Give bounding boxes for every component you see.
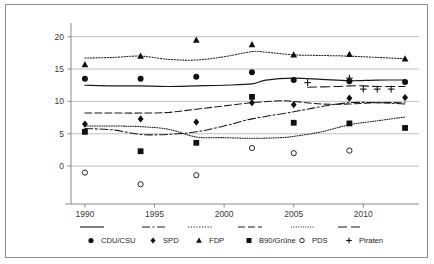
datapoint-spd-2013	[402, 94, 408, 101]
datapoint-spd-1994	[138, 115, 144, 122]
datapoint-b90-gr-ne-2002	[249, 94, 255, 100]
x-tick-label-1990: 1990	[75, 209, 94, 219]
datapoint-spd-2005	[291, 101, 297, 108]
series-lines-group	[85, 51, 405, 138]
series-line-spd	[85, 102, 405, 134]
chart-legend: CDU/CSUSPDFDPB90/GrünePDSPiraten	[80, 227, 383, 245]
series-line-cdu-csu	[85, 78, 405, 86]
y-axis-tick-labels: 05101520	[55, 32, 65, 171]
x-axis-tick-labels: 19901995200020052010	[75, 209, 373, 219]
datapoint-spd-2009	[346, 95, 352, 102]
datapoint-piraten-2006	[304, 79, 311, 86]
legend-label-spd: SPD	[163, 236, 179, 245]
y-tick-label-15: 15	[55, 64, 65, 74]
datapoint-b90-gr-ne-1990	[82, 129, 88, 135]
datapoint-fdp-1990	[82, 61, 89, 67]
datapoint-pds-1994	[138, 182, 143, 187]
datapoint-cdu-csu-2005	[291, 77, 297, 83]
datapoint-cdu-csu-1990	[82, 76, 88, 82]
y-tick-label-5: 5	[59, 129, 64, 139]
series-markers-group	[82, 36, 409, 186]
legend-marker-fdp	[196, 237, 202, 242]
datapoint-b90-gr-ne-2005	[291, 120, 297, 126]
datapoint-b90-gr-ne-2013	[402, 125, 408, 131]
series-line-piraten	[308, 86, 405, 87]
x-tick-label-1995: 1995	[145, 209, 164, 219]
datapoint-b90-gr-ne-2009	[347, 121, 353, 127]
legend-label-cdu-csu: CDU/CSU	[101, 236, 136, 245]
datapoint-pds-2005	[291, 151, 296, 156]
datapoint-spd-2002	[249, 99, 255, 106]
datapoint-b90-gr-ne-1994	[138, 148, 144, 154]
legend-marker-b90-gr-ne	[247, 238, 252, 243]
x-tick-label-2005: 2005	[284, 209, 303, 219]
datapoint-b90-gr-ne-1998	[193, 140, 199, 146]
gridlines-group	[71, 37, 419, 166]
y-tick-label-0: 0	[59, 161, 64, 171]
datapoint-pds-1998	[194, 173, 199, 178]
legend-label-fdp: FDP	[209, 236, 224, 245]
legend-marker-piraten	[346, 238, 352, 244]
y-tick-label-20: 20	[55, 32, 65, 42]
datapoint-spd-1990	[82, 120, 88, 127]
datapoint-cdu-csu-2002	[249, 69, 255, 75]
datapoint-fdp-2002	[249, 41, 256, 47]
legend-label-b90-gr-ne: B90/Grüne	[259, 236, 296, 245]
legend-marker-pds	[300, 238, 304, 242]
line-chart: 19901995200020052010 05101520 CDU/CSUSPD…	[6, 5, 427, 257]
datapoint-spd-1998	[193, 119, 199, 126]
legend-label-pds: PDS	[312, 236, 328, 245]
chart-screenshot: 19901995200020052010 05101520 CDU/CSUSPD…	[0, 0, 434, 264]
legend-marker-cdu-csu	[88, 238, 93, 243]
datapoint-pds-2002	[249, 145, 254, 150]
x-tick-label-2000: 2000	[215, 209, 234, 219]
chart-frame: 19901995200020052010 05101520 CDU/CSUSPD…	[5, 4, 428, 258]
datapoint-cdu-csu-1998	[193, 74, 199, 80]
datapoint-cdu-csu-1994	[138, 76, 144, 82]
datapoint-fdp-1998	[193, 36, 200, 42]
datapoint-pds-1990	[82, 170, 87, 175]
datapoint-fdp-2009	[346, 51, 353, 57]
series-markers-cdu-csu	[82, 69, 408, 85]
legend-label-piraten: Piraten	[359, 236, 383, 245]
axes-group	[65, 23, 419, 208]
datapoint-pds-2009	[347, 148, 352, 153]
series-line-fdp	[85, 51, 405, 60]
datapoint-cdu-csu-2013	[402, 79, 408, 85]
y-tick-label-10: 10	[55, 96, 65, 106]
x-tick-label-2010: 2010	[354, 209, 373, 219]
datapoint-piraten-2010	[360, 86, 367, 93]
series-markers-fdp	[82, 36, 409, 67]
legend-marker-spd	[150, 237, 155, 243]
